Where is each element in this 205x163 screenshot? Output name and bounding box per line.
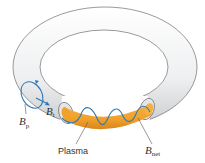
bp-label: Bp (19, 115, 30, 130)
plasma-label: Plasma (58, 146, 88, 156)
tokamak-diagram: Bp Bt Plasma Bnet (0, 0, 205, 163)
bnet-leader-line (138, 118, 152, 144)
bnet-label: Bnet (145, 144, 160, 158)
torus-illustration: Bp Bt Plasma Bnet (0, 0, 205, 163)
torus (13, 7, 197, 127)
bp-leader-line (25, 104, 26, 114)
